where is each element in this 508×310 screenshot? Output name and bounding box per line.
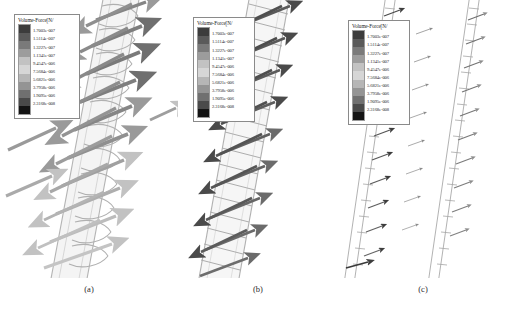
legend-label-9: 2.3168e-008 [212,103,234,111]
legend-title-c: Volume-Force[N/ [352,23,406,29]
legend-label-5: 7.5684e-006 [33,68,55,76]
legend-swatch-10 [353,112,364,120]
legend-swatch-8 [19,90,30,98]
legend-label-4: 9.4547e-006 [367,66,389,74]
legend-label-0: 1.7003e-007 [367,33,389,41]
legend-label-7: 3.7958e-006 [33,84,55,92]
legend-swatch-1 [353,39,364,47]
legend-swatch-8 [198,93,209,101]
legend-label-7: 3.7958e-006 [367,90,389,98]
legend-label-0: 1.7003e-007 [212,30,234,38]
legend-label-8: 1.9095e-006 [212,95,234,103]
legend-swatch-9 [198,101,209,109]
legend-label-6: 5.6821e-006 [33,76,55,84]
legend-swatch-3 [198,52,209,60]
caption-a: (a) [0,284,178,294]
legend-swatch-10 [19,106,30,114]
legend-label-2: 1.3227e-007 [367,50,389,58]
caption-b: (b) [178,284,338,294]
legend-labels-c: 1.7003e-0071.5114e-0071.3227e-0071.1341e… [367,30,389,114]
legend-swatch-7 [19,82,30,90]
legend-label-1: 1.5114e-007 [33,35,55,43]
legend-label-9: 2.3168e-008 [33,100,55,108]
legend-label-8: 1.9095e-006 [33,92,55,100]
legend-label-2: 1.3227e-007 [212,47,234,55]
legend-label-3: 1.1341e-007 [367,58,389,66]
legend-label-6: 5.6821e-006 [212,79,234,87]
legend-label-1: 1.5114e-007 [367,41,389,49]
legend-swatch-2 [353,47,364,55]
legend-label-5: 7.5684e-006 [367,74,389,82]
legend-label-2: 1.3227e-007 [33,44,55,52]
legend-label-0: 1.7003e-007 [33,27,55,35]
legend-swatch-1 [198,36,209,44]
legend-label-6: 5.6821e-006 [367,82,389,90]
legend-swatch-6 [19,74,30,82]
legend-colorbar-a [18,24,31,115]
legend-label-8: 1.9095e-006 [367,98,389,106]
figure-container: Volume-Force[N/ 1.7003e-0071.5114e-0071.… [0,0,508,310]
legend-panel-a: Volume-Force[N/ 1.7003e-0071.5114e-0071.… [14,14,80,119]
legend-label-3: 1.1341e-007 [33,52,55,60]
legend-swatch-2 [19,41,30,49]
legend-swatch-3 [353,55,364,63]
legend-label-4: 9.4547e-006 [212,63,234,71]
legend-swatch-0 [19,25,30,33]
legend-panel-c: Volume-Force[N/ 1.7003e-0071.5114e-0071.… [348,20,410,125]
legend-swatch-7 [198,85,209,93]
legend-title-b: Volume-Force[N/ [197,20,251,26]
legend-panel-b: Volume-Force[N/ 1.7003e-0071.5114e-0071.… [193,17,255,122]
legend-swatch-5 [353,71,364,79]
legend-body-b: 1.7003e-0071.5114e-0071.3227e-0071.1341e… [197,27,251,118]
legend-title-a: Volume-Force[N/ [18,17,76,23]
legend-colorbar-b [197,27,210,118]
legend-swatch-2 [198,44,209,52]
legend-swatch-8 [353,96,364,104]
legend-label-1: 1.5114e-007 [212,38,234,46]
legend-swatch-0 [353,31,364,39]
legend-swatch-4 [353,63,364,71]
legend-labels-b: 1.7003e-0071.5114e-0071.3227e-0071.1341e… [212,27,234,111]
legend-labels-a: 1.7003e-0071.5114e-0071.3227e-0071.1341e… [33,24,55,108]
legend-swatch-1 [19,33,30,41]
legend-swatch-4 [19,57,30,65]
legend-label-7: 3.7958e-006 [212,87,234,95]
legend-body-c: 1.7003e-0071.5114e-0071.3227e-0071.1341e… [352,30,406,121]
legend-label-3: 1.1341e-007 [212,55,234,63]
legend-label-5: 7.5684e-006 [212,71,234,79]
legend-label-4: 9.4547e-006 [33,60,55,68]
legend-swatch-3 [19,49,30,57]
legend-swatch-9 [353,104,364,112]
legend-swatch-6 [198,77,209,85]
legend-swatch-0 [198,28,209,36]
legend-label-9: 2.3168e-008 [367,106,389,114]
legend-swatch-6 [353,80,364,88]
legend-body-a: 1.7003e-0071.5114e-0071.3227e-0071.1341e… [18,24,76,115]
legend-swatch-5 [19,65,30,73]
legend-swatch-5 [198,68,209,76]
legend-swatch-10 [198,109,209,117]
legend-swatch-9 [19,98,30,106]
legend-swatch-4 [198,60,209,68]
legend-colorbar-c [352,30,365,121]
legend-swatch-7 [353,88,364,96]
caption-c: (c) [338,284,508,294]
